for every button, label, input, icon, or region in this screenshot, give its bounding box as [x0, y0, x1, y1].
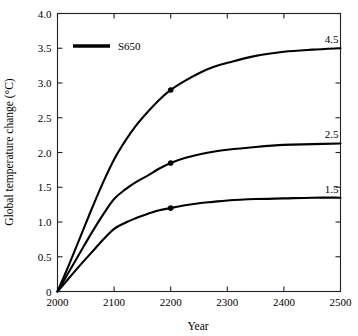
legend-label: S650 — [118, 40, 141, 52]
x-tick-label: 2100 — [103, 296, 126, 308]
x-tick-label: 2200 — [160, 296, 183, 308]
y-tick-label: 0.5 — [38, 251, 52, 263]
series-marker — [168, 205, 174, 211]
plot-frame — [58, 14, 341, 292]
series-end-label: 2.5 — [325, 128, 339, 140]
y-tick-label: 2.5 — [38, 112, 52, 124]
series-curve — [58, 198, 341, 292]
x-tick-label: 2300 — [216, 296, 239, 308]
y-tick-label: 1.5 — [38, 181, 52, 193]
series-curve — [58, 143, 341, 291]
x-tick-label: 2500 — [330, 296, 353, 308]
series-marker — [168, 160, 174, 166]
y-tick-label: 4.0 — [38, 8, 52, 20]
series-marker — [168, 87, 174, 93]
line-chart: 00.51.01.52.02.53.03.54.0 20002100220023… — [0, 0, 358, 336]
series-curve — [58, 48, 341, 291]
y-tick-label: 1.0 — [38, 216, 52, 228]
x-tick-label: 2400 — [273, 296, 296, 308]
chart-figure: 00.51.01.52.02.53.03.54.0 20002100220023… — [0, 0, 358, 336]
series-end-label: 1.5 — [325, 183, 339, 195]
x-axis-title: Year — [187, 320, 208, 332]
y-tick-label: 2.0 — [38, 147, 52, 159]
y-axis-tick-labels: 00.51.01.52.02.53.03.54.0 — [38, 8, 52, 298]
y-tick-label: 3.5 — [38, 42, 52, 54]
series-end-labels: 4.52.51.5 — [325, 33, 339, 194]
y-tick-label: 3.0 — [38, 77, 52, 89]
y-axis-title: Global temperature change (°C) — [3, 78, 16, 225]
series-end-label: 4.5 — [325, 33, 339, 45]
data-point-markers — [168, 87, 174, 211]
x-tick-label: 2000 — [47, 296, 70, 308]
chart-legend: S650 — [73, 40, 141, 52]
axis-ticks — [58, 14, 341, 292]
x-axis-tick-labels: 200021002200230024002500 — [47, 296, 353, 308]
data-series-curves — [58, 48, 341, 291]
